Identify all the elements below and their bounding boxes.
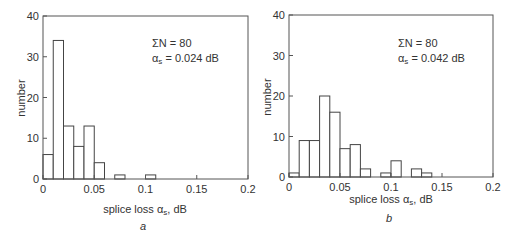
x-axis-label: splice loss αs, dB [103,203,187,217]
y-tick-label: 40 [27,10,39,22]
x-tick-label: 0 [40,183,46,195]
histogram-panel-b: 00.050.10.150.2010203040 number splice l… [246,0,503,234]
histogram-bar [74,146,84,179]
y-tick-label: 20 [273,90,285,102]
y-tick-label: 20 [27,92,39,104]
x-tick-label: 0.05 [329,181,350,193]
x-tick-label: 0.15 [186,183,207,195]
histogram-bar [422,173,432,177]
histogram-bar [64,126,74,179]
histogram-bar [381,173,391,177]
annotation-mean: αs = 0.024 dB [152,52,219,66]
x-axis-label: splice loss αs, dB [349,193,433,207]
histogram-bar [309,141,319,177]
histogram-bar [360,169,370,177]
y-axis-label: number [15,79,27,117]
y-tick-label: 30 [27,51,39,63]
y-tick-label: 40 [273,9,285,21]
histogram-bar [299,141,309,177]
histogram-a: 00.050.10.150.2010203040 number splice l… [0,0,257,234]
x-tick-label: 0.05 [84,183,105,195]
histogram-bar [411,169,421,177]
panel-label: b [386,212,392,224]
histogram-bar [350,145,360,177]
x-tick-label: 0 [286,181,292,193]
histogram-bar [115,175,125,179]
histogram-bar [320,96,330,177]
annotation-sum: ΣN = 80 [152,37,192,49]
histogram-bar [53,40,63,179]
bars [43,40,156,179]
histogram-bar [146,175,156,179]
histogram-b: 00.050.10.150.2010203040 number splice l… [246,0,503,234]
histogram-panel-a: 00.050.10.150.2010203040 number splice l… [0,0,257,234]
annotation-sum: ΣN = 80 [398,37,438,49]
y-tick-label: 10 [273,131,285,143]
bars [289,96,432,177]
histogram-bar [43,155,53,179]
y-tick-label: 30 [273,50,285,62]
histogram-bar [391,161,401,177]
y-axis-label: number [261,78,273,116]
histogram-bar [84,126,94,179]
histogram-bar [289,173,299,177]
annotation-mean: αs = 0.042 dB [398,52,465,66]
panel-label: a [140,220,146,232]
x-tick-label: 0.1 [138,183,153,195]
y-tick-label: 0 [279,171,285,183]
x-tick-label: 0.2 [485,181,500,193]
histogram-bar [340,149,350,177]
x-tick-label: 0.15 [431,181,452,193]
y-tick-label: 0 [33,173,39,185]
x-tick-label: 0.1 [383,181,398,193]
histogram-bar [330,112,340,177]
histogram-bar [94,163,104,179]
y-tick-label: 10 [27,132,39,144]
